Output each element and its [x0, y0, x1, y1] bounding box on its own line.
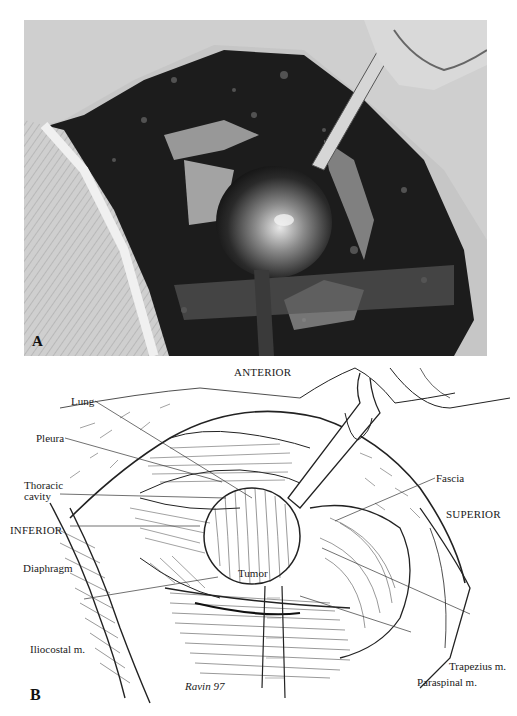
- label-lung: Lung: [71, 395, 94, 407]
- orientation-superior: SUPERIOR: [446, 508, 501, 520]
- panel-b-illustration: ANTERIOR INFERIOR SUPERIOR Lung Pleura T…: [0, 358, 517, 716]
- orientation-inferior: INFERIOR: [10, 524, 62, 536]
- tumor-shape: [216, 166, 332, 278]
- label-thoracic-cavity-line2: cavity: [24, 490, 51, 502]
- label-fascia: Fascia: [436, 472, 464, 484]
- panel-label-b: B: [30, 686, 41, 704]
- artist-signature: Ravin 97: [185, 680, 224, 692]
- label-tumor: Tumor: [238, 567, 268, 579]
- label-pleura: Pleura: [36, 432, 64, 444]
- label-paraspinal: Paraspinal m.: [417, 676, 477, 688]
- panel-a-photograph: A: [24, 20, 487, 356]
- anatomical-drawing: [0, 358, 517, 716]
- panel-label-a: A: [32, 333, 43, 350]
- label-diaphragm: Diaphragm: [23, 562, 72, 574]
- orientation-anterior: ANTERIOR: [234, 366, 291, 378]
- surgical-photo-image: [24, 20, 487, 356]
- label-iliocostal: Iliocostal m.: [30, 643, 85, 655]
- label-trapezius: Trapezius m.: [449, 660, 506, 672]
